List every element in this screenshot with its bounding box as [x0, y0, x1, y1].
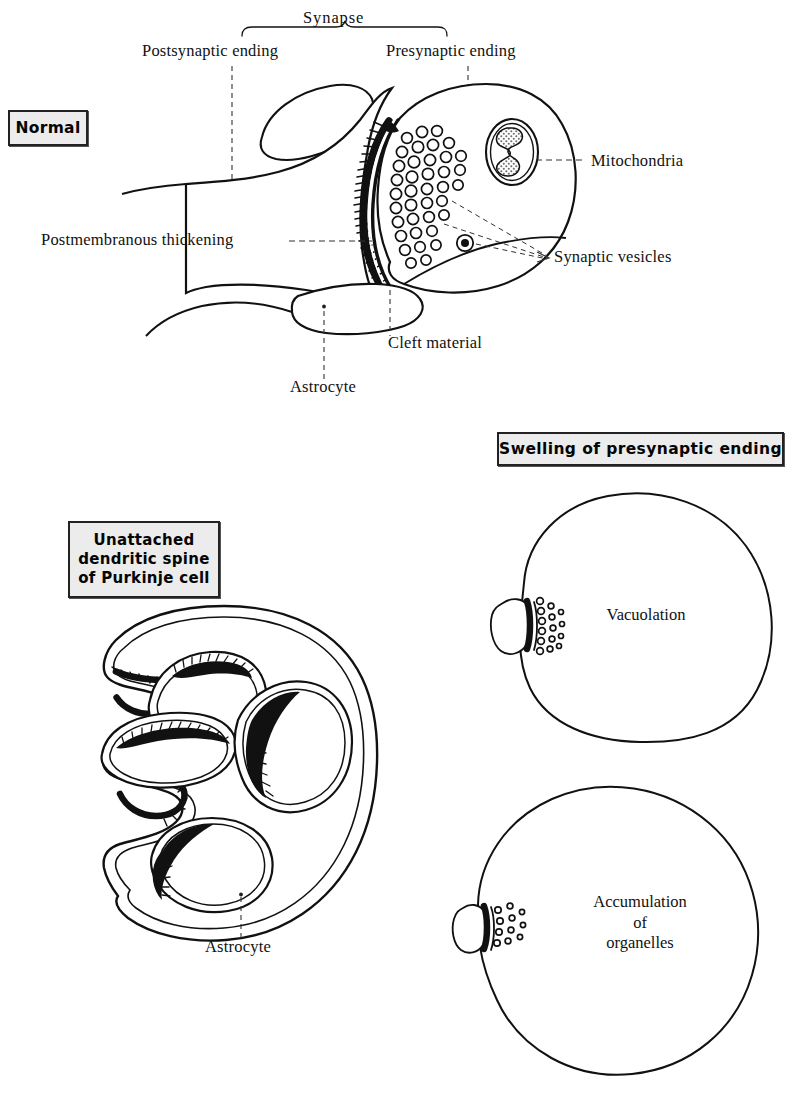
label-cleft-material: Cleft material — [388, 333, 482, 353]
astrocyte-process-lower — [292, 284, 423, 334]
panel-label-purkinje: Unattached dendritic spine of Purkinje c… — [68, 521, 220, 598]
label-presynaptic-ending: Presynaptic ending — [386, 41, 516, 61]
label-synapse: Synapse — [303, 8, 364, 28]
psd-bar-2 — [484, 906, 487, 949]
panel-label-purkinje-text: Unattached dendritic spine of Purkinje c… — [78, 531, 210, 589]
panel-label-normal: Normal — [8, 110, 88, 146]
label-synaptic-vesicles: Synaptic vesicles — [554, 247, 672, 267]
label-vacuolation: Vacuolation — [600, 605, 692, 626]
psd-bar-1 — [527, 601, 530, 649]
label-postmembranous-thickening: Postmembranous thickening — [41, 230, 233, 250]
mitochondria-organelle — [486, 119, 538, 185]
panel-label-swelling-text: Swelling of presynaptic ending — [499, 440, 782, 458]
label-accumulation-of-organelles: Accumulation of organelles — [570, 892, 710, 954]
label-astrocyte-bottom: Astrocyte — [205, 937, 271, 957]
label-postsynaptic-ending: Postsynaptic ending — [142, 41, 278, 61]
label-astrocyte-top: Astrocyte — [290, 377, 356, 397]
panel-label-swelling: Swelling of presynaptic ending — [497, 432, 784, 466]
panel-label-normal-text: Normal — [16, 119, 81, 137]
dense-core-vesicle — [457, 235, 473, 251]
dendritic-spine-profile-c — [235, 681, 352, 812]
dendritic-spine-profile-d — [151, 818, 272, 912]
label-mitochondria: Mitochondria — [591, 151, 683, 171]
